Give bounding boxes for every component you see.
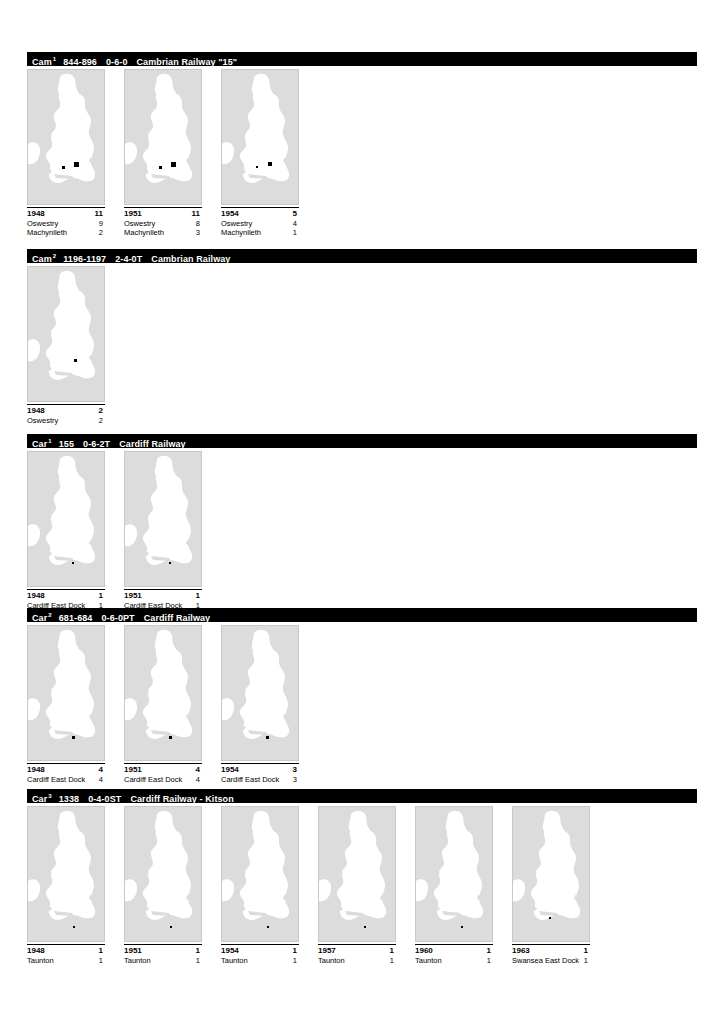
year-total-count: 11: [192, 209, 200, 219]
wheel-arrangement: 0-6-0PT: [101, 613, 134, 623]
depot-count: 3: [293, 775, 297, 784]
allocation-table: 19543Cardiff East Dock3: [221, 763, 299, 784]
depot-marker: [62, 166, 65, 169]
year-cell: 19631Swansea East Dock1: [512, 806, 590, 965]
year-label: 1951: [124, 209, 142, 219]
loco-class-section: Cam21196-11972-4-0TCambrian Railway19482…: [27, 249, 697, 423]
year-total-count: 1: [293, 946, 297, 956]
depot-marker: [72, 562, 74, 564]
class-code: Car1: [32, 439, 52, 449]
depot-row: Taunton1: [221, 956, 299, 965]
depot-row: Oswestry8: [124, 219, 202, 228]
class-code: Car3: [32, 794, 52, 804]
depot-count: 2: [99, 416, 103, 425]
allocation-table: 19482Oswestry2: [27, 404, 105, 425]
depot-name: Oswestry: [221, 219, 252, 228]
year-total-row: 19484: [27, 763, 105, 775]
allocation-map: [221, 806, 299, 942]
year-total-count: 1: [196, 591, 200, 601]
year-label: 1954: [221, 946, 239, 956]
allocation-map: [512, 806, 590, 942]
year-total-row: 19481: [27, 944, 105, 956]
depot-name: Oswestry: [27, 219, 58, 228]
allocation-table: 19631Swansea East Dock1: [512, 944, 590, 965]
year-cell: 19481Taunton1: [27, 806, 105, 965]
year-total-row: 19543: [221, 763, 299, 775]
year-total-count: 1: [99, 591, 103, 601]
depot-marker: [266, 736, 269, 739]
allocation-table: 19481Taunton1: [27, 944, 105, 965]
loco-class-section: Cam1844-8960-6-0Cambrian Railway "15"194…: [27, 52, 697, 235]
year-cell: 19543Cardiff East Dock3: [221, 625, 299, 784]
great-britain-map: [125, 452, 201, 586]
depot-name: Cardiff East Dock: [221, 775, 279, 784]
depot-marker: [169, 736, 172, 739]
great-britain-map: [28, 452, 104, 586]
year-total-row: 19514: [124, 763, 202, 775]
allocation-table: 19601Taunton1: [415, 944, 493, 965]
year-label: 1948: [27, 765, 45, 775]
allocation-table: 19511Cardiff East Dock1: [124, 589, 202, 610]
year-total-row: 19481: [27, 589, 105, 601]
loco-number-range: 155: [59, 439, 74, 449]
originating-railway: Cambrian Railway "15": [137, 57, 238, 67]
depot-name: Machynlleth: [124, 228, 164, 237]
year-cell: 194811Oswestry9Machynlleth2: [27, 69, 105, 237]
class-code: Cam1: [32, 57, 56, 67]
year-label: 1951: [124, 765, 142, 775]
great-britain-map: [416, 807, 492, 941]
depot-name: Taunton: [221, 956, 248, 965]
depot-count: 1: [390, 956, 394, 965]
depot-marker: [74, 359, 77, 362]
depot-row: Taunton1: [415, 956, 493, 965]
wheel-arrangement: 0-6-0: [106, 57, 128, 67]
year-cell-row: 19482Oswestry2: [27, 266, 697, 423]
allocation-map: [27, 69, 105, 205]
originating-railway: Cardiff Railway - Kitson: [130, 794, 233, 804]
depot-name: Oswestry: [124, 219, 155, 228]
depot-marker: [170, 926, 172, 928]
depot-count: 3: [196, 228, 200, 237]
class-superscript: 3: [48, 793, 51, 799]
year-cell: 19541Taunton1: [221, 806, 299, 965]
year-total-count: 1: [584, 946, 588, 956]
great-britain-map: [28, 626, 104, 760]
depot-count: 1: [99, 956, 103, 965]
year-cell: 19511Taunton1: [124, 806, 202, 965]
depot-marker: [461, 926, 463, 928]
year-total-row: 19541: [221, 944, 299, 956]
year-label: 1948: [27, 591, 45, 601]
depot-count: 4: [99, 775, 103, 784]
year-cell: 195111Oswestry8Machynlleth3: [124, 69, 202, 237]
depot-count: 1: [293, 956, 297, 965]
year-label: 1957: [318, 946, 336, 956]
section-header: Cam1844-8960-6-0Cambrian Railway "15": [27, 52, 697, 66]
allocation-map: [124, 69, 202, 205]
year-cell: 19545Oswestry4Machynlleth1: [221, 69, 299, 237]
great-britain-map: [222, 626, 298, 760]
year-total-count: 3: [293, 765, 297, 775]
depot-name: Machynlleth: [27, 228, 67, 237]
depot-row: Oswestry2: [27, 416, 105, 425]
depot-count: 1: [584, 956, 588, 965]
year-cell: 19481Cardiff East Dock1: [27, 451, 105, 610]
allocation-table: 195111Oswestry8Machynlleth3: [124, 207, 202, 237]
depot-name: Cardiff East Dock: [124, 775, 182, 784]
depot-count: 2: [99, 228, 103, 237]
allocation-table: 19514Cardiff East Dock4: [124, 763, 202, 784]
class-superscript: 2: [48, 612, 51, 618]
year-label: 1951: [124, 946, 142, 956]
year-total-count: 4: [196, 765, 200, 775]
depot-row: Oswestry4: [221, 219, 299, 228]
year-total-row: 19571: [318, 944, 396, 956]
depot-row: Swansea East Dock1: [512, 956, 590, 965]
allocation-table: 19571Taunton1: [318, 944, 396, 965]
class-superscript: 1: [48, 438, 51, 444]
great-britain-map: [319, 807, 395, 941]
great-britain-map: [125, 807, 201, 941]
year-cell: 19601Taunton1: [415, 806, 493, 965]
year-total-count: 1: [487, 946, 491, 956]
wheel-arrangement: 2-4-0T: [115, 254, 142, 264]
depot-row: Machynlleth2: [27, 228, 105, 237]
year-total-row: 19511: [124, 944, 202, 956]
